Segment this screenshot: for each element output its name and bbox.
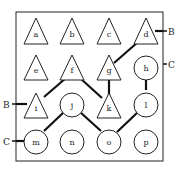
- edge-j-o: [80, 112, 101, 131]
- label-l: l: [145, 101, 148, 110]
- external-label-C-right: C: [168, 60, 175, 70]
- graph-diagram: a b c d e f g h i j k l m n o p B C B C: [0, 0, 182, 170]
- label-o: o: [107, 138, 112, 147]
- label-p: p: [143, 138, 148, 147]
- label-g: g: [106, 66, 111, 75]
- edges: [16, 31, 167, 141]
- edge-f-i: [44, 78, 66, 97]
- label-j: j: [70, 101, 73, 110]
- label-d: d: [143, 30, 148, 39]
- external-label-B-right: B: [168, 27, 175, 37]
- label-c: c: [107, 30, 112, 39]
- external-label-B-left: B: [3, 100, 10, 110]
- edge-o-l: [117, 112, 138, 132]
- external-label-C-left: C: [3, 137, 10, 147]
- label-n: n: [69, 138, 74, 147]
- label-e: e: [34, 66, 39, 75]
- label-a: a: [34, 30, 39, 39]
- label-b: b: [69, 30, 74, 39]
- edge-d-g: [114, 42, 138, 63]
- edge-f-k: [80, 78, 102, 98]
- label-h: h: [143, 64, 148, 73]
- label-i: i: [35, 104, 38, 113]
- label-m: m: [32, 138, 40, 147]
- label-k: k: [107, 104, 112, 113]
